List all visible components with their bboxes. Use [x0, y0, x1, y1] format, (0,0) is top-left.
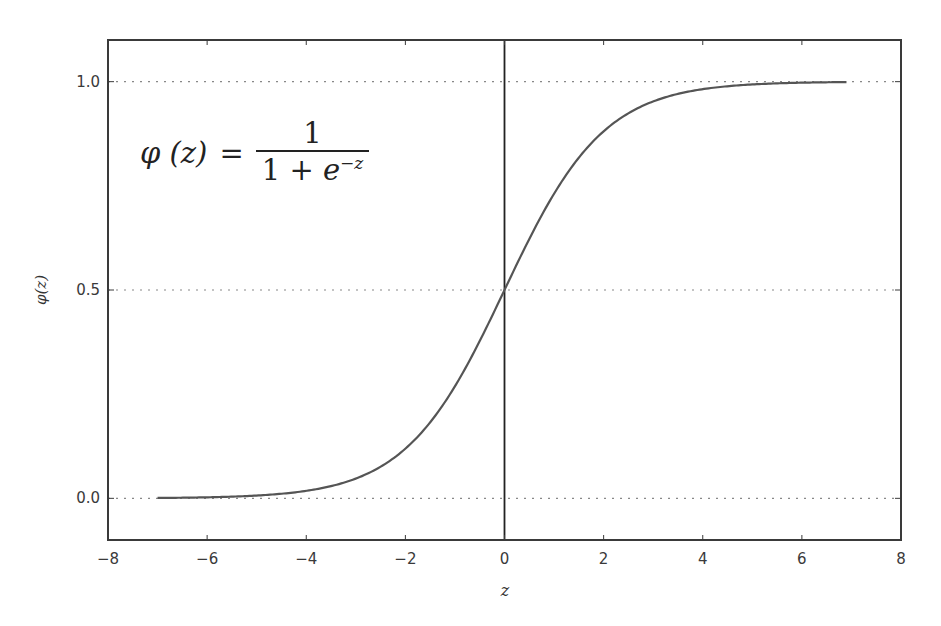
x-tick-label: −4: [295, 550, 317, 568]
x-tick-label: −2: [394, 550, 416, 568]
sigmoid-formula: φ (z) = 1 1 + e−z: [140, 118, 369, 187]
formula-numerator: 1: [297, 118, 327, 150]
sigmoid-chart: −8−6−4−202468 0.00.51.0 z φ(z): [0, 0, 941, 626]
y-tick-label: 0.5: [76, 281, 100, 299]
denominator-exponent: −z: [340, 153, 363, 173]
y-axis-label: φ(z): [32, 275, 50, 305]
formula-lhs: φ (z): [140, 136, 207, 170]
formula-denominator: 1 + e−z: [256, 152, 370, 187]
x-tick-label: −6: [196, 550, 218, 568]
x-tick-label: 0: [500, 550, 510, 568]
x-tick-label: 6: [797, 550, 807, 568]
x-tick-label: −8: [97, 550, 119, 568]
denominator-base: e: [323, 153, 340, 187]
x-tick-label: 4: [698, 550, 708, 568]
x-tick-label: 2: [599, 550, 609, 568]
formula-equals: =: [219, 136, 243, 170]
y-tick-label: 1.0: [76, 73, 100, 91]
x-tick-label: 8: [896, 550, 906, 568]
formula-fraction: 1 1 + e−z: [256, 118, 370, 187]
y-tick-label: 0.0: [76, 489, 100, 507]
x-axis-label: z: [500, 581, 510, 600]
denominator-prefix: 1 +: [262, 153, 323, 187]
